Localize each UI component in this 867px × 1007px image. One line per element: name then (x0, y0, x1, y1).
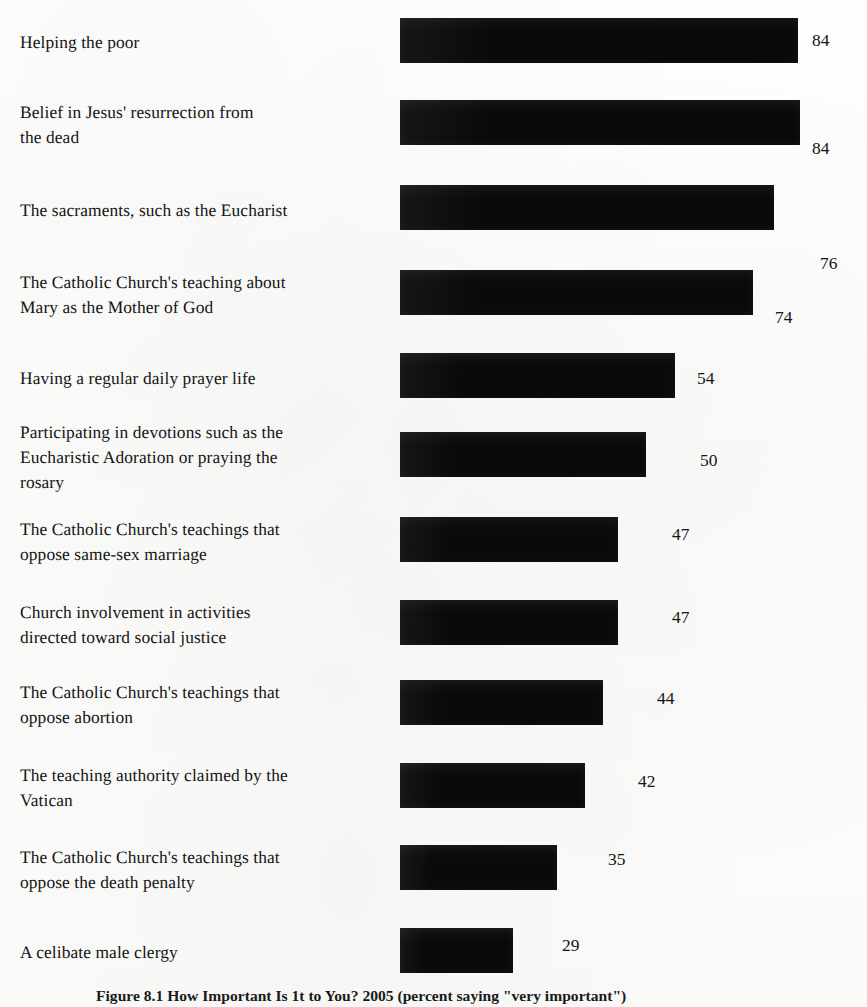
horizontal-bar-chart: Helping the poor84Belief in Jesus' resur… (0, 0, 867, 1007)
category-label: The Catholic Church's teachings that opp… (20, 680, 392, 730)
category-label: Participating in devotions such as the E… (20, 420, 392, 495)
bar-value-label: 84 (812, 138, 829, 158)
bar-value-label: 76 (820, 253, 837, 273)
bar (400, 353, 675, 398)
category-label: A celibate male clergy (20, 940, 392, 965)
bar-value-label: 47 (672, 607, 689, 627)
bar (400, 270, 753, 315)
bar-value-label: 54 (697, 368, 714, 388)
category-label: The Catholic Church's teaching about Mar… (20, 270, 392, 320)
bar (400, 100, 800, 145)
bar-value-label: 50 (700, 450, 717, 470)
category-label: Helping the poor (20, 30, 392, 55)
bar-value-label: 29 (562, 935, 579, 955)
bar (400, 432, 646, 477)
bar-value-label: 84 (812, 30, 829, 50)
bar-value-label: 74 (775, 307, 792, 327)
bar (400, 18, 798, 63)
bar (400, 763, 585, 808)
bar-value-label: 42 (638, 771, 655, 791)
bar-value-label: 44 (657, 688, 674, 708)
bar-value-label: 35 (608, 849, 625, 869)
bar-value-label: 47 (672, 524, 689, 544)
bar (400, 928, 513, 973)
bar (400, 680, 603, 725)
category-label: Church involvement in activities directe… (20, 600, 392, 650)
figure-page: Helping the poor84Belief in Jesus' resur… (0, 0, 867, 1007)
category-label: Having a regular daily prayer life (20, 366, 392, 391)
bar (400, 845, 557, 890)
category-label: The sacraments, such as the Eucharist (20, 198, 392, 223)
bar (400, 185, 774, 230)
bar (400, 517, 618, 562)
category-label: The teaching authority claimed by the Va… (20, 763, 392, 813)
bar (400, 600, 618, 645)
category-label: Belief in Jesus' resurrection from the d… (20, 100, 392, 150)
category-label: The Catholic Church's teachings that opp… (20, 845, 392, 895)
category-label: The Catholic Church's teachings that opp… (20, 517, 392, 567)
